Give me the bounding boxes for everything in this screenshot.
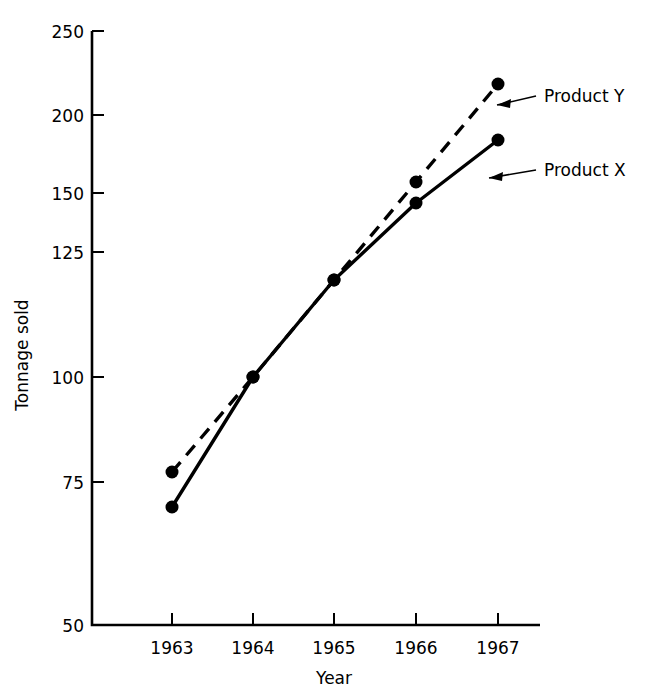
series-product-x	[166, 134, 505, 514]
x-axis-ticks	[172, 613, 498, 625]
x-tick-label-1966: 1966	[394, 638, 437, 658]
x-tick-label-1967: 1967	[476, 638, 519, 658]
product-x-line	[172, 140, 498, 507]
x-tick-label-1965: 1965	[312, 638, 355, 658]
x-tick-label-1964: 1964	[231, 638, 274, 658]
y-tick-label-125: 125	[52, 243, 84, 263]
product-x-arrowhead-icon	[489, 172, 503, 181]
product-x-point-1965	[328, 274, 341, 287]
axis-group	[92, 31, 540, 625]
y-tick-label-150: 150	[52, 184, 84, 204]
y-tick-label-200: 200	[52, 106, 84, 126]
y-axis-title-group: Tonnage sold	[12, 299, 32, 411]
x-axis-tick-labels: 1963 1964 1965 1966 1967	[150, 638, 519, 658]
y-axis-ticks	[92, 31, 104, 625]
y-axis-tick-labels: 250 200 150 125 100 75 50	[52, 22, 84, 636]
y-tick-label-250: 250	[52, 22, 84, 42]
product-y-point-1963	[166, 466, 179, 479]
product-y-point-1966	[410, 176, 423, 189]
axis-lines	[92, 31, 540, 625]
product-x-label: Product X	[544, 160, 626, 180]
y-tick-label-100: 100	[52, 368, 84, 388]
chart-container: 250 200 150 125 100 75 50 Tonnage sold 1…	[0, 0, 660, 699]
x-axis-title: Year	[315, 668, 352, 688]
annotation-product-x: Product X	[489, 160, 626, 181]
y-axis-title: Tonnage sold	[12, 299, 32, 411]
product-x-point-1964	[247, 371, 260, 384]
line-chart-svg: 250 200 150 125 100 75 50 Tonnage sold 1…	[0, 0, 660, 699]
y-tick-label-75: 75	[62, 473, 84, 493]
y-tick-label-50: 50	[62, 616, 84, 636]
product-y-arrowhead-icon	[497, 99, 511, 108]
product-x-point-1966	[410, 197, 423, 210]
product-y-label: Product Y	[544, 86, 625, 106]
annotation-product-y: Product Y	[497, 86, 625, 108]
x-tick-label-1963: 1963	[150, 638, 193, 658]
product-x-point-1967	[492, 134, 505, 147]
product-y-point-1967	[492, 78, 505, 91]
product-x-point-1963	[166, 501, 179, 514]
